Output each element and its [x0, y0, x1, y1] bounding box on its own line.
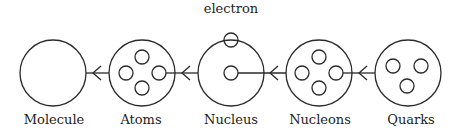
nucleon-particle [295, 66, 309, 80]
atoms-label: Atoms [119, 112, 161, 127]
arrow-atoms-to-molecule [86, 66, 109, 80]
quark-particle [400, 79, 414, 93]
quarks-node [375, 40, 441, 106]
molecule-label: Molecule [24, 112, 85, 127]
nucleon-particle [329, 66, 343, 80]
arrow-nucleus-to-atoms [166, 66, 198, 80]
electron-label: electron [204, 1, 259, 16]
nucleus-label: Nucleus [204, 112, 258, 127]
quark-particle [414, 59, 428, 73]
nucleus-core [224, 66, 238, 80]
arrow-nucleons-to-nucleus [238, 66, 286, 80]
atom-particle [135, 81, 149, 95]
diagram-canvas: electron Molecule Atoms Nucleus Nucleons… [0, 0, 464, 133]
arrow-quarks-to-nucleons [343, 66, 375, 80]
nucleus-node [198, 33, 264, 106]
atom-particle [135, 50, 149, 64]
nucleons-label: Nucleons [289, 112, 351, 127]
atoms-node [109, 40, 175, 106]
quarks-label: Quarks [387, 112, 435, 127]
atom-particle [152, 66, 166, 80]
nucleons-node [286, 40, 352, 106]
nucleon-particle [312, 81, 326, 95]
nucleon-particle [312, 50, 326, 64]
atom-particle [119, 66, 133, 80]
molecule-node [20, 40, 86, 106]
quark-particle [386, 59, 400, 73]
